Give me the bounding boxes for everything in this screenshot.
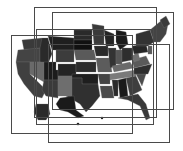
state-nebraska bbox=[74, 50, 96, 60]
state-north-dakota bbox=[74, 30, 92, 40]
state-iowa bbox=[94, 46, 108, 56]
state-michigan bbox=[116, 30, 128, 50]
state-louisiana bbox=[100, 86, 114, 98]
state-alabama bbox=[118, 78, 128, 98]
state-indiana bbox=[116, 50, 122, 64]
state-minnesota bbox=[92, 24, 104, 44]
state-arkansas bbox=[98, 74, 110, 84]
territory-inset bbox=[34, 104, 50, 120]
state-kansas bbox=[76, 62, 96, 72]
state-oregon bbox=[16, 48, 40, 62]
state-wyoming bbox=[56, 50, 74, 62]
state-south-dakota bbox=[74, 40, 92, 50]
state-florida bbox=[118, 94, 150, 120]
us-choropleth-map bbox=[0, 0, 183, 151]
state-utah bbox=[44, 62, 58, 80]
state-montana bbox=[48, 36, 74, 50]
state-ohio bbox=[122, 48, 132, 62]
state-wisconsin bbox=[104, 30, 114, 46]
state-arizona bbox=[42, 80, 58, 98]
hawaii-island bbox=[101, 117, 103, 119]
state-new-jersey bbox=[148, 46, 152, 54]
state-new-mexico bbox=[58, 76, 72, 96]
state-hawaii bbox=[77, 123, 80, 126]
